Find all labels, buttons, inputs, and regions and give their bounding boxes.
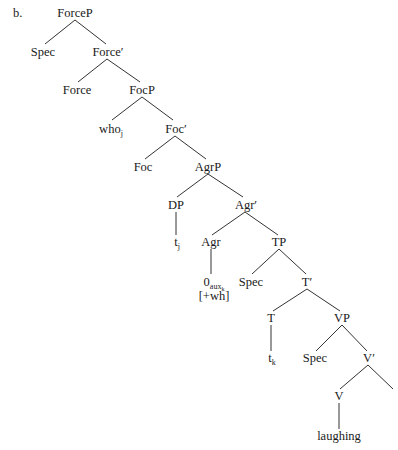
node-agr-bar: Agr′ [235,198,257,212]
node-spec-force: Spec [31,45,55,59]
node-who-label: who [99,122,121,136]
node-v-bar: V′ [363,351,375,365]
index-k: k [272,358,276,367]
node-tp: TP [272,235,287,249]
node-laughing: laughing [317,429,361,443]
tree-edges [0,0,398,450]
node-null-aux: 0auxk[+wh] [199,275,230,303]
node-t: T [267,311,275,325]
node-force: Force [63,83,91,97]
node-v: V [334,389,343,403]
node-agrp: AgrP [195,160,221,174]
node-foc-bar: Foc′ [165,122,186,136]
node-spec-v: Spec [303,351,327,365]
node-who: whoj [99,122,123,136]
node-vp: VP [334,311,350,325]
node-spec-t: Spec [239,275,263,289]
example-label: b. [13,6,22,21]
node-t-bar: T′ [302,275,312,289]
node-foc: Foc [134,160,153,174]
wh-feature: [+wh] [199,289,230,303]
index-j: j [121,129,123,138]
node-trace-j: tj [174,235,180,249]
node-force-bar: Force′ [92,45,123,59]
node-agr: Agr [201,235,220,249]
node-dp: DP [168,198,184,212]
index-j: j [178,242,180,251]
node-focp: FocP [129,83,155,97]
node-forcep: ForceP [57,6,92,20]
node-trace-k: tk [268,351,275,365]
